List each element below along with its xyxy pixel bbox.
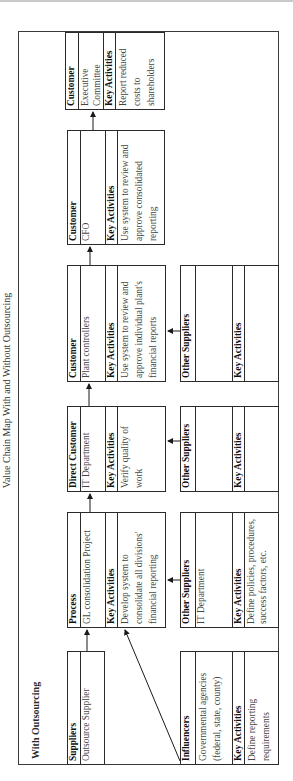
value-chain-diagram: Value Chain Map With and Without Outsour… [0,0,293,781]
flow-arrows [0,0,293,781]
arrow-influencers-to-process [125,630,180,761]
